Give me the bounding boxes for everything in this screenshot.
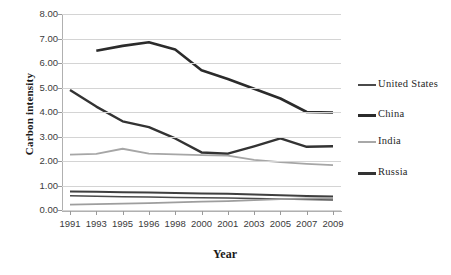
x-tick-mark xyxy=(70,211,71,215)
x-tick-mark xyxy=(123,211,124,215)
x-tick-mark xyxy=(202,211,203,215)
x-tick-mark xyxy=(333,211,334,215)
x-tick-mark xyxy=(254,211,255,215)
x-tick-mark xyxy=(175,211,176,215)
x-tick-mark xyxy=(149,211,150,215)
x-tick-label: 2009 xyxy=(313,218,353,229)
legend-swatch-icon xyxy=(358,172,376,175)
legend-label: Russia xyxy=(376,166,408,178)
x-tick-mark xyxy=(280,211,281,215)
legend-item[interactable]: China xyxy=(358,108,405,120)
legend-item[interactable]: United States xyxy=(358,78,438,90)
legend-label: United States xyxy=(376,78,438,90)
legend-label: China xyxy=(376,108,405,120)
x-tick-mark xyxy=(228,211,229,215)
x-tick-mark xyxy=(96,211,97,215)
legend-swatch-icon xyxy=(358,84,376,86)
chart-figure: Carbon intensity 0.001.002.003.004.005.0… xyxy=(0,0,451,275)
legend-item[interactable]: India xyxy=(358,135,401,147)
legend-item[interactable]: Russia xyxy=(358,166,408,178)
legend-label: India xyxy=(376,135,401,147)
x-axis-title: Year xyxy=(150,247,300,262)
legend-swatch-icon xyxy=(358,114,376,117)
legend-swatch-icon xyxy=(358,141,376,143)
x-tick-mark xyxy=(307,211,308,215)
